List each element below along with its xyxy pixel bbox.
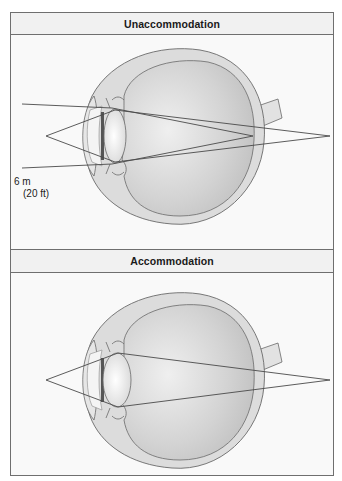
distance-label-feet: (20 ft) — [14, 188, 49, 200]
eye-accommodation — [46, 293, 330, 469]
eye-diagrams — [0, 0, 342, 481]
lens-rounded — [103, 353, 131, 407]
vitreous-body — [122, 61, 254, 216]
distance-label: 6 m (20 ft) — [14, 176, 49, 200]
distance-label-meters: 6 m — [14, 176, 49, 188]
vitreous-body — [122, 305, 254, 460]
lens-flattened — [104, 109, 126, 163]
eye-unaccommodation — [22, 49, 330, 225]
iris — [101, 112, 104, 160]
